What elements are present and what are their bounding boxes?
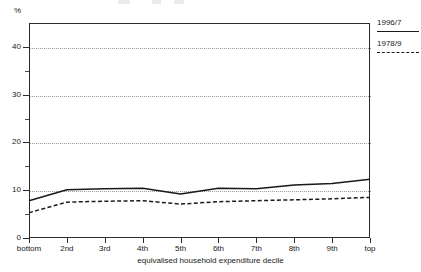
x-tick-2nd [67,238,68,243]
x-tick-5th [181,238,182,243]
y-tick-minor-25 [25,119,29,120]
y-axis-unit-label: % [14,6,21,16]
cropped-heading-artifact [174,0,184,4]
y-tick-30 [23,95,29,96]
y-tick-label-30: 30 [1,91,21,99]
y-tick-10 [23,190,29,191]
x-tick-4th [143,238,144,243]
cropped-heading-artifact [152,0,161,4]
x-tick-8th [294,238,295,243]
line-chart: % 010203040 bottom2nd3rd4th5th6th7th8th9… [0,0,421,272]
gridline-30 [30,96,371,97]
x-tick-top [370,238,371,243]
y-tick-label-0: 0 [1,234,21,242]
gridline-40 [30,48,371,49]
x-tick-9th [332,238,333,243]
x-tick-label-9th: 9th [327,244,338,253]
legend-label-1996-7: 1996/7 [377,18,421,28]
x-tick-label-top: top [364,244,375,253]
x-tick-label-5th: 5th [175,244,186,253]
x-tick-6th [218,238,219,243]
cropped-heading-artifact [118,0,130,4]
x-tick-label-2nd: 2nd [60,244,73,253]
x-tick-3rd [105,238,106,243]
gridline-20 [30,143,371,144]
x-tick-7th [256,238,257,243]
y-tick-40 [23,47,29,48]
y-tick-20 [23,142,29,143]
x-axis-title: equivalised household expenditure decile [0,256,421,266]
y-tick-label-40: 40 [1,43,21,51]
x-tick-label-6th: 6th [213,244,224,253]
x-tick-label-3rd: 3rd [99,244,111,253]
y-tick-minor-5 [25,214,29,215]
gridline-10 [30,191,371,192]
legend-label-1978-9: 1978/9 [377,39,421,49]
x-tick-bottom [29,238,30,243]
chart-legend: 1996/71978/9 [377,18,421,60]
plot-area [29,23,370,238]
x-tick-label-8th: 8th [289,244,300,253]
y-tick-label-10: 10 [1,186,21,194]
y-tick-minor-35 [25,71,29,72]
x-tick-label-4th: 4th [137,244,148,253]
x-tick-label-bottom: bottom [17,244,41,253]
legend-swatch-solid [377,31,419,32]
y-tick-label-20: 20 [1,138,21,146]
y-tick-minor-15 [25,166,29,167]
legend-swatch-dashed [377,52,419,53]
legend-entry-1996-7: 1996/7 [377,18,421,32]
x-tick-label-7th: 7th [251,244,262,253]
legend-entry-1978-9: 1978/9 [377,39,421,53]
